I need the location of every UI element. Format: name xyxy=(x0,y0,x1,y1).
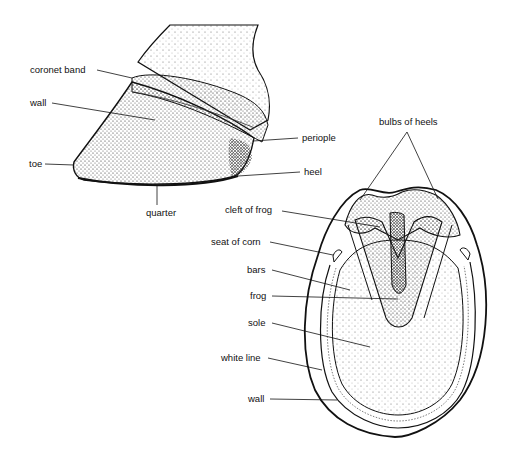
side-view-hoof xyxy=(73,25,269,185)
label-toe: toe xyxy=(29,159,42,169)
label-seat-of-corn: seat of corn xyxy=(211,237,261,247)
label-periople: periople xyxy=(302,133,336,143)
label-coronet-band: coronet band xyxy=(30,65,85,75)
label-white-line: white line xyxy=(221,353,261,363)
label-wall-side: wall xyxy=(30,98,46,108)
label-wall-sole: wall xyxy=(248,394,264,404)
label-bulbs-of-heels: bulbs of heels xyxy=(379,117,438,127)
hoof-anatomy-diagram: coronet band wall toe quarter periople h… xyxy=(0,0,531,455)
label-cleft-of-frog: cleft of frog xyxy=(225,205,272,215)
label-bars: bars xyxy=(247,265,265,275)
label-frog: frog xyxy=(250,291,266,301)
label-quarter: quarter xyxy=(146,208,176,218)
label-sole: sole xyxy=(248,318,265,328)
label-heel: heel xyxy=(304,167,322,177)
